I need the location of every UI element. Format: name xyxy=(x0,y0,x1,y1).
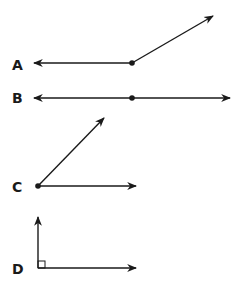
figure-b: B xyxy=(12,90,230,106)
label-c: C xyxy=(12,179,22,195)
figure-a: A xyxy=(12,16,213,73)
right-angle-marker xyxy=(38,261,45,268)
label-a: A xyxy=(12,57,23,73)
vertex-dot xyxy=(35,183,41,189)
vertex-dot xyxy=(129,60,135,66)
vertex-dot xyxy=(129,95,135,101)
label-b: B xyxy=(12,90,23,106)
label-d: D xyxy=(12,261,24,277)
angle-diagram: A B C D xyxy=(0,0,244,282)
ray-up-right xyxy=(132,16,213,63)
figure-c: C xyxy=(12,118,136,195)
ray-up-right xyxy=(38,118,104,186)
figure-d: D xyxy=(12,217,136,277)
